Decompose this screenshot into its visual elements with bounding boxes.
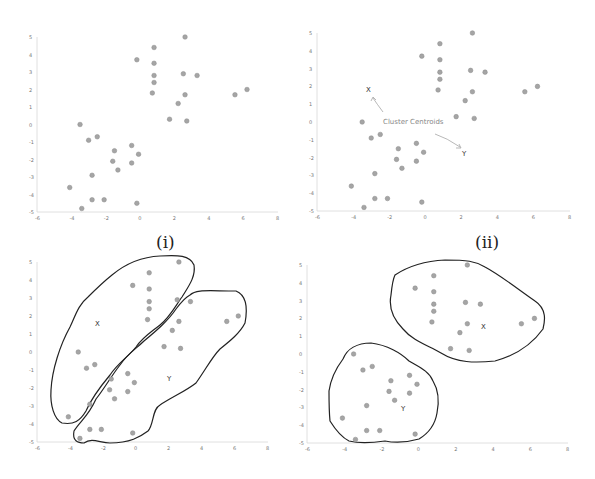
data-point (184, 119, 189, 124)
x-tick-label: 0 (423, 214, 426, 220)
y-tick-label: 0 (29, 349, 32, 355)
centroid-y-label: Y (461, 150, 467, 158)
data-point (413, 432, 418, 437)
data-point (400, 166, 405, 171)
data-point (430, 320, 435, 325)
cluster-boundary-y (329, 343, 438, 443)
data-point (389, 378, 394, 383)
y-tick-label: 3 (299, 298, 302, 304)
scatter-panel-centroids: -6-4-202468543210-1-2-3-4-5 Cluster Cent… (295, 0, 595, 230)
y-tick-label: 2 (29, 313, 32, 319)
cluster-panel-ii: -6-4-202468543210-1-2-3-4-5 X Y (295, 225, 595, 479)
data-point (145, 317, 150, 322)
data-point (535, 84, 540, 89)
data-point (90, 197, 95, 202)
x-tick-label: 8 (276, 215, 279, 221)
data-point (147, 271, 152, 276)
data-point (364, 428, 369, 433)
data-point (176, 101, 181, 106)
x-tick-label: 4 (200, 445, 203, 451)
x-tick-label: 2 (460, 214, 463, 220)
data-point (178, 346, 183, 351)
data-point (523, 89, 528, 94)
x-tick-label: -6 (35, 215, 40, 221)
data-point (66, 415, 71, 420)
data-point (414, 141, 419, 146)
x-tick-label: 2 (173, 215, 176, 221)
data-point (364, 403, 369, 408)
centroid-x-label: X (481, 323, 486, 331)
data-point (175, 298, 180, 303)
cluster-boundary-x (390, 260, 544, 362)
scatter-panel-raw: -6-4-202468543210-1-2-3-4-5 (0, 0, 295, 230)
y-tick-label: 5 (309, 30, 312, 36)
data-point (147, 307, 152, 312)
y-tick-label: -2 (29, 385, 34, 391)
data-point (183, 35, 188, 40)
data-point (79, 206, 84, 211)
data-point (152, 45, 157, 50)
x-tick-label: 8 (568, 214, 571, 220)
data-point (233, 92, 238, 97)
data-point (349, 184, 354, 189)
y-tick-label: -4 (29, 421, 34, 427)
data-point (438, 77, 443, 82)
data-point (413, 286, 418, 291)
x-tick-label: 6 (529, 446, 532, 452)
data-point (116, 168, 121, 173)
data-point (351, 352, 356, 357)
cluster-centroids-label: Cluster Centroids (383, 118, 444, 126)
y-tick-label: 1 (29, 104, 32, 110)
y-tick-label: 3 (29, 295, 32, 301)
data-point (109, 377, 114, 382)
data-point (378, 132, 383, 137)
x-tick-label: -6 (305, 446, 310, 452)
data-point (86, 138, 91, 143)
data-point (152, 61, 157, 66)
y-tick-label: -3 (29, 403, 34, 409)
y-tick-label: 1 (299, 333, 302, 339)
data-point (463, 300, 468, 305)
data-point (421, 150, 426, 155)
data-point (125, 389, 130, 394)
arrow-to-y-icon (435, 134, 460, 147)
data-point (152, 73, 157, 78)
data-point (369, 136, 374, 141)
y-tick-label: 2 (299, 315, 302, 321)
data-point (478, 302, 483, 307)
y-tick-label: -1 (309, 137, 314, 143)
data-point (177, 319, 182, 324)
data-point (102, 197, 107, 202)
y-tick-label: -3 (309, 172, 314, 178)
data-point (84, 366, 89, 371)
data-point (76, 350, 81, 355)
x-tick-label: 2 (167, 445, 170, 451)
x-tick-label: -4 (351, 214, 356, 220)
data-point (370, 364, 375, 369)
data-point (420, 54, 425, 59)
x-tick-label: 6 (233, 445, 236, 451)
y-tick-label: -1 (29, 367, 34, 373)
y-tick-label: 0 (29, 122, 32, 128)
data-point (135, 57, 140, 62)
data-point (88, 402, 93, 407)
x-tick-label: -6 (35, 445, 40, 451)
data-point (88, 427, 93, 432)
cluster-boundary-x (51, 256, 194, 424)
data-point (129, 143, 134, 148)
data-point (195, 73, 200, 78)
centroid-x-label: X (366, 86, 371, 94)
data-point (394, 157, 399, 162)
data-point (465, 321, 470, 326)
y-tick-label: 1 (309, 101, 312, 107)
data-point (377, 428, 382, 433)
data-point (431, 273, 436, 278)
data-point (130, 283, 135, 288)
x-tick-label: -4 (342, 446, 347, 452)
data-point (532, 316, 537, 321)
y-tick-label: -5 (299, 440, 304, 446)
x-tick-label: 8 (566, 446, 569, 452)
x-tick-label: -2 (101, 445, 106, 451)
y-tick-label: 3 (309, 66, 312, 72)
data-point (130, 431, 135, 436)
